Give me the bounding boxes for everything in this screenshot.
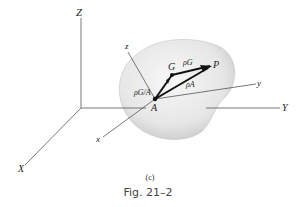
label-G: G [168,61,175,72]
point-G [170,73,174,77]
figure-caption: Fig. 21–2 [123,186,172,199]
label-rho-G: ρG [182,58,193,67]
label-y: y [256,78,261,88]
axis-X [25,108,81,165]
panel-label: (c) [146,173,155,182]
label-Z: Z [76,6,83,18]
label-z: z [124,41,129,51]
label-rho-G-A: ρG/A [133,88,151,97]
rigid-body-diagram: Z Y X z y x A G P ρG ρA ρG/A (c) Fig. 21… [0,0,296,207]
label-A: A [150,102,158,113]
point-A [153,97,157,101]
label-rho-A: ρA [185,80,195,89]
label-P: P [212,59,219,70]
label-x: x [95,134,100,144]
label-Y: Y [282,102,289,113]
label-X: X [17,163,25,174]
